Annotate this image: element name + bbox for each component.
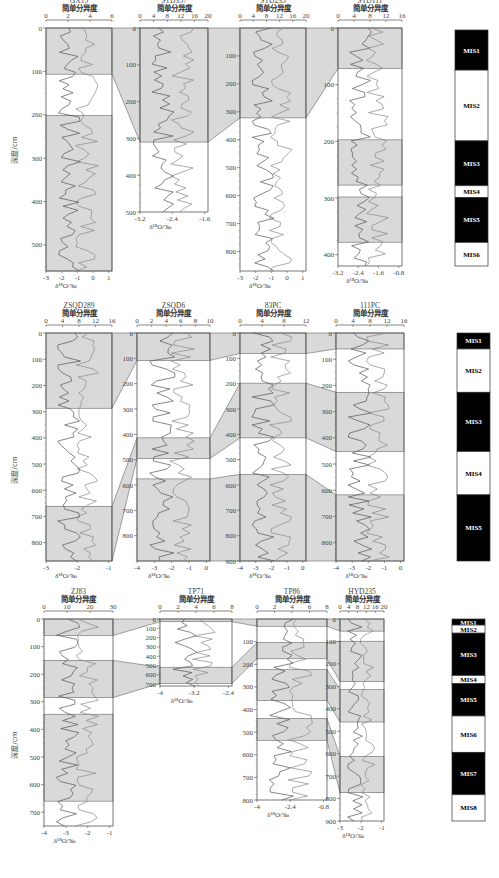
core-name: ZJ83	[71, 587, 86, 596]
mis-column: MIS1MIS2MIS3MIS4MIS5MIS6	[455, 30, 488, 266]
depth-tick-label: 500	[146, 662, 157, 670]
bottom-tick-label: -3	[337, 824, 343, 832]
top-tick-label: 6	[212, 603, 216, 611]
depth-tick-label: 300	[123, 406, 134, 414]
shaded-interval	[340, 756, 384, 792]
top-tick-label: 16	[401, 317, 409, 325]
shaded-interval	[336, 392, 404, 451]
top-tick-label: 16	[191, 12, 199, 20]
depth-tick-label: 700	[123, 507, 134, 515]
core-name: ZSQD6	[162, 301, 186, 310]
core-zj83: 0102030简单分异度ZJ83-4-3-2-1δ¹⁸O/‰0100200300…	[30, 587, 161, 845]
depth-tick-label: 800	[322, 539, 333, 547]
bottom-axis-title: δ¹⁸O/‰	[149, 223, 171, 231]
depth-tick-label: 700	[226, 220, 237, 228]
depth-tick-label: 200	[322, 382, 333, 390]
row-3: 0102030简单分异度ZJ83-4-3-2-1δ¹⁸O/‰0100200300…	[10, 587, 485, 845]
mis-column: MIS1MIS2MIS3MIS4MIS5	[457, 333, 490, 561]
depth-tick-label: 200	[243, 661, 254, 669]
top-tick-label: 8	[368, 12, 372, 20]
depth-tick-label: 700	[32, 513, 43, 521]
depth-tick-label: 400	[146, 653, 157, 661]
depth-tick-label: 800	[226, 248, 237, 256]
depth-tick-label: 500	[243, 729, 254, 737]
depth-tick-label: 700	[326, 773, 337, 781]
shaded-interval	[44, 714, 113, 801]
top-tick-label: 6	[179, 317, 183, 325]
top-tick-label: 2	[176, 603, 180, 611]
depth-tick-label: 100	[32, 356, 43, 364]
depth-tick-label: 0	[233, 330, 237, 338]
mis-label: MIS6	[463, 251, 480, 259]
depth-tick-label: 700	[243, 774, 254, 782]
depth-tick-label: 600	[226, 192, 237, 200]
bottom-tick-label: -4	[254, 803, 260, 811]
shaded-interval	[240, 383, 306, 438]
shaded-interval	[160, 619, 232, 622]
mis-label: MIS4	[463, 188, 480, 196]
depth-tick-label: 300	[226, 406, 237, 414]
bottom-tick-label: 0	[91, 274, 95, 282]
core-name: 111PC	[360, 301, 380, 310]
top-tick-label: 4	[347, 603, 351, 611]
depth-tick-label: 900	[326, 818, 337, 826]
core-zsqd289: 0481216简单分异度ZSQD289-3-2-1δ¹⁸O/‰010020030…	[32, 301, 138, 580]
top-tick-label: 8	[194, 317, 198, 325]
bottom-tick-label: -2.4	[353, 269, 365, 277]
depth-tick-label: 400	[32, 198, 43, 206]
depth-axis-title: 深度/cm	[10, 456, 19, 483]
depth-tick-label: 300	[126, 135, 137, 143]
top-tick-label: 4	[260, 317, 264, 325]
core-name: HYD235	[348, 587, 376, 596]
top-tick-label: 20	[303, 12, 311, 20]
depth-tick-label: 0	[333, 616, 337, 624]
depth-tick-label: 100	[123, 355, 134, 363]
bottom-tick-label: -1.6	[199, 215, 211, 223]
top-tick-label: 4	[152, 12, 156, 20]
mis-label: MIS2	[465, 367, 482, 375]
depth-tick-label: 300	[243, 683, 254, 691]
correlation-band	[210, 383, 240, 458]
bottom-tick-label: -3	[151, 564, 157, 572]
depth-tick-label: 0	[133, 25, 137, 33]
bottom-tick-label: -1	[268, 274, 274, 282]
top-tick-label: 16	[372, 603, 380, 611]
depth-tick-label: 100	[226, 355, 237, 363]
depth-tick-label: 600	[146, 671, 157, 679]
depth-tick-label: 800	[123, 532, 134, 540]
depth-tick-label: 600	[326, 750, 337, 758]
shaded-interval	[257, 719, 327, 741]
top-tick-label: 2	[66, 12, 70, 20]
top-tick-label: 12	[177, 12, 185, 20]
depth-tick-label: 400	[123, 431, 134, 439]
depth-tick-label: 500	[123, 456, 134, 464]
depth-tick-label: 0	[130, 330, 134, 338]
mis-column: MIS1MIS2MIS3MIS4MIS5MIS6MIS7MIS8	[452, 619, 485, 821]
depth-tick-label: 800	[32, 539, 43, 547]
depth-tick-label: 100	[324, 81, 335, 89]
shaded-interval	[46, 333, 112, 408]
shaded-interval	[140, 28, 208, 142]
shaded-interval	[340, 641, 384, 681]
mis-label: MIS3	[460, 651, 477, 659]
depth-tick-label: 0	[39, 330, 43, 338]
depth-tick-label: 400	[324, 251, 335, 259]
top-tick-label: 10	[64, 603, 72, 611]
bottom-tick-label: -1	[382, 564, 388, 572]
depth-tick-label: 200	[126, 98, 137, 106]
top-tick-label: 12	[276, 12, 284, 20]
depth-tick-label: 600	[243, 751, 254, 759]
top-tick-label: 8	[77, 317, 81, 325]
bottom-tick-label: -4	[134, 564, 140, 572]
bottom-tick-label: -4	[41, 829, 47, 837]
top-tick-label: 4	[290, 603, 294, 611]
bottom-axis-title: δ¹⁸O/‰	[55, 282, 77, 290]
correlation-band	[112, 28, 140, 142]
depth-tick-label: 900	[226, 558, 237, 566]
depth-tick-label: 600	[32, 487, 43, 495]
core-name: 83PC	[265, 301, 282, 310]
core-gx15: 0246简单分异度GX15-3-2-101δ¹⁸O/‰0100200300400…	[32, 0, 141, 290]
shaded-interval	[44, 660, 113, 697]
bottom-axis-title: δ¹⁸O/‰	[249, 282, 271, 290]
top-tick-label: 4	[88, 12, 92, 20]
